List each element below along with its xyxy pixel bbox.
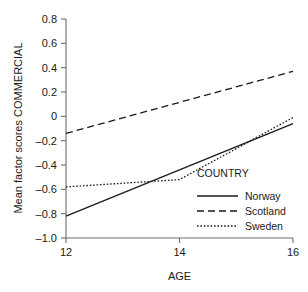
series-line-sweden (66, 118, 293, 187)
legend-label-sweden: Sweden (245, 220, 283, 232)
y-tick-label: –0.8 (36, 208, 57, 220)
y-tick-label: –0.4 (36, 159, 57, 171)
line-chart: 0.8 0.6 0.4 0.2 0 –0.2 –0.4 –0.6 –0.8 –1… (0, 0, 308, 292)
x-tick-label: 12 (60, 246, 72, 258)
y-tick-label: 0.2 (42, 86, 57, 98)
series-line-norway (66, 124, 293, 216)
y-axis-title: Mean factor scores COMMERCIAL (12, 42, 24, 213)
x-tick-labels: 12 14 16 (60, 246, 299, 258)
y-tick-label: 0.4 (42, 62, 57, 74)
legend-label-norway: Norway (245, 190, 281, 202)
x-tick-marks (66, 238, 293, 243)
legend-title: COUNTRY (197, 167, 249, 179)
y-tick-marks (61, 19, 66, 238)
legend-label-scotland: Scotland (245, 205, 286, 217)
legend-entry-sweden: Sweden (197, 220, 283, 232)
y-tick-label: 0.8 (42, 13, 57, 25)
x-tick-label: 16 (287, 246, 299, 258)
chart-legend: COUNTRY Norway Scotland Sweden (197, 167, 286, 232)
chart-figure: 0.8 0.6 0.4 0.2 0 –0.2 –0.4 –0.6 –0.8 –1… (0, 0, 308, 292)
y-tick-label: –0.6 (36, 183, 57, 195)
legend-entry-scotland: Scotland (197, 205, 286, 217)
x-axis-title: AGE (168, 270, 191, 282)
y-tick-label: –0.2 (36, 135, 57, 147)
y-tick-labels: 0.8 0.6 0.4 0.2 0 –0.2 –0.4 –0.6 –0.8 –1… (36, 13, 57, 244)
legend-entry-norway: Norway (197, 190, 281, 202)
y-tick-label: 0 (51, 110, 57, 122)
y-tick-label: 0.6 (42, 37, 57, 49)
y-tick-label: –1.0 (36, 232, 57, 244)
series-line-scotland (66, 71, 293, 133)
x-tick-label: 14 (173, 246, 185, 258)
